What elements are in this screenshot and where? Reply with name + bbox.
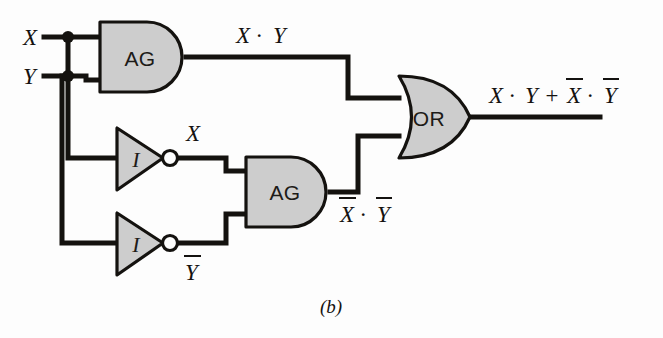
logic-circuit-figure: AG AG I I OR X Y X · Y — [0, 0, 663, 338]
signal-and2-x: X — [339, 202, 355, 227]
signal-label-inverter1-out: X — [185, 121, 201, 146]
signal-inverter1-x: X — [185, 121, 201, 146]
wire-inverter1-out-to-and2 — [178, 158, 246, 171]
signal-and2-dot: · — [360, 202, 366, 227]
and-gate-2[interactable]: AG — [246, 157, 326, 227]
wire-and1-out-to-or — [186, 57, 399, 98]
figure-caption: (b) — [320, 296, 342, 318]
and-gate-1-label: AG — [124, 47, 155, 70]
or-out-dot2: · — [587, 83, 593, 108]
or-gate[interactable]: OR — [399, 76, 470, 158]
input-label-y: Y — [23, 64, 38, 89]
inverter-2-bubble-icon — [163, 236, 178, 251]
input-label-x: X — [22, 25, 38, 50]
or-out-x1: X — [488, 83, 504, 108]
inverter-2-body — [117, 213, 163, 275]
and-gate-1[interactable]: AG — [100, 22, 182, 92]
signal-and1-x: X — [235, 23, 251, 48]
inverter-1-bubble-icon — [163, 151, 178, 166]
or-gate-label: OR — [413, 107, 445, 130]
junction-dot-y — [62, 70, 74, 82]
wire-and2-out-to-or — [330, 136, 399, 192]
inverter-1-body — [117, 128, 163, 190]
inverter-2[interactable]: I — [117, 213, 178, 275]
or-out-x2: X — [566, 83, 582, 108]
signal-and1-dot: · — [256, 23, 262, 48]
signal-label-and2-out: X · Y — [339, 198, 392, 227]
and-gate-2-label: AG — [269, 181, 300, 204]
or-out-y1: Y — [525, 83, 540, 108]
inverter-1[interactable]: I — [117, 128, 178, 190]
signal-and1-y: Y — [273, 23, 288, 48]
wire-inverter2-out-to-and2 — [178, 214, 246, 243]
circuit-diagram-canvas: AG AG I I OR X Y X · Y — [0, 0, 663, 338]
signal-label-and1-out: X · Y — [235, 23, 288, 48]
signal-label-or-out: X · Y + X · Y — [488, 79, 619, 108]
or-out-y2: Y — [604, 83, 619, 108]
or-out-plus: + — [544, 83, 560, 108]
junction-dot-x — [62, 31, 74, 43]
signal-inverter2-y: Y — [185, 260, 200, 285]
or-out-dot1: · — [509, 83, 515, 108]
signal-label-inverter2-out: Y — [184, 256, 201, 285]
signal-and2-y: Y — [377, 202, 392, 227]
